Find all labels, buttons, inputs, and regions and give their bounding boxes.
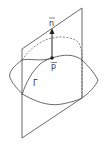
diagram-canvas: n p Γ	[0, 0, 106, 148]
point-label: p	[51, 62, 56, 71]
gamma-label: Γ	[33, 79, 38, 88]
point-p	[50, 56, 54, 60]
gamma-curve	[22, 58, 52, 95]
normal-arrowhead	[50, 28, 55, 34]
normal-label: n	[49, 19, 54, 28]
